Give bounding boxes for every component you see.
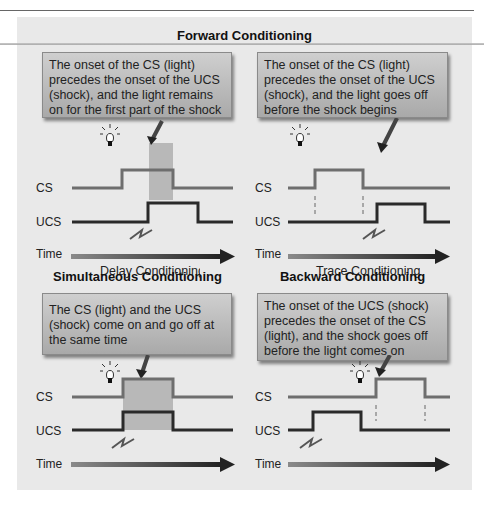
cs-label: CS (36, 181, 53, 195)
ucs-signal-line (288, 204, 450, 222)
cs-label: CS (255, 390, 272, 404)
ucs-label: UCS (36, 424, 61, 438)
forward-heading: Forward Conditioning (17, 28, 472, 43)
time-label: Time (36, 247, 63, 258)
onset-offset-markers (376, 405, 425, 421)
delay-description-box: The onset of the CS (light) precedes the… (42, 52, 232, 118)
delay-conditioning-diagram: CS UCS Time (30, 118, 250, 258)
top-rule (0, 10, 474, 11)
pointer-arrow-icon (136, 355, 148, 379)
cs-signal-line (288, 170, 450, 188)
ucs-signal-line (288, 412, 450, 430)
time-label: Time (36, 457, 63, 471)
crossing-rule (0, 43, 484, 45)
pointer-arrow-icon (147, 121, 162, 145)
onset-offset-markers (315, 196, 363, 214)
simultaneous-description-box: The CS (light) and the UCS (shock) come … (42, 293, 232, 355)
overlap-region (123, 380, 173, 430)
pointer-arrow-icon (375, 355, 390, 377)
lightning-icon (300, 439, 322, 448)
cs-signal-line (288, 379, 450, 397)
lightbulb-icon (350, 361, 370, 383)
time-label: Time (255, 247, 282, 258)
ucs-label: UCS (255, 424, 280, 438)
trace-conditioning-diagram: CS UCS Time (245, 118, 465, 258)
backward-heading: Backward Conditioning (245, 269, 460, 284)
ucs-signal-line (72, 203, 233, 222)
cs-label: CS (255, 181, 272, 195)
lightbulb-icon (100, 124, 120, 146)
ucs-label: UCS (255, 215, 280, 229)
lightning-icon (363, 230, 385, 239)
pointer-arrow-icon (377, 118, 397, 153)
time-label: Time (255, 457, 282, 471)
simultaneous-time-arrow (70, 456, 250, 480)
arrow-head-icon (220, 249, 235, 264)
cs-label: CS (36, 390, 53, 404)
lightning-icon (112, 439, 134, 448)
lightbulb-icon (100, 361, 120, 383)
lightning-icon (130, 230, 152, 239)
backward-description-box: The onset of the UCS (shock) precedes th… (257, 293, 448, 361)
trace-description-box: The onset of the CS (light) precedes the… (257, 52, 448, 118)
lightbulb-icon (290, 124, 310, 146)
backward-time-arrow (287, 456, 467, 480)
simultaneous-heading: Simultaneous Conditioning (30, 269, 245, 284)
ucs-label: UCS (36, 215, 61, 229)
